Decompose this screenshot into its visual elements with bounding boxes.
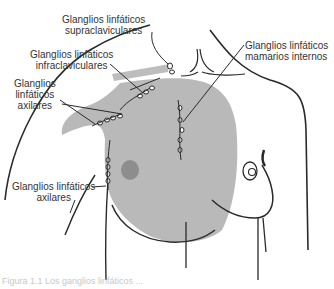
label-infraclavicular-nodes: Glanglios linfáticos infraclaviculares — [30, 49, 113, 71]
right-nipple — [249, 169, 256, 176]
breast-lymph-node-diagram: Glanglios linfáticos supraclaviculares G… — [0, 0, 334, 289]
leader-supraclavicular — [152, 32, 168, 64]
label-axillary-nodes-lower: Glanglios linfáticos axilares — [12, 181, 95, 203]
clavicle-left — [181, 72, 198, 76]
label-supraclavicular-nodes: Glanglios linfáticos supraclaviculares — [62, 14, 145, 36]
right-armpit-mark — [263, 150, 265, 166]
right-torso-line-2 — [263, 218, 266, 252]
neck-left — [190, 49, 198, 72]
label-axillary-nodes-upper: Glanglios linfáticos axilares — [14, 78, 56, 111]
supraclavicular-band — [112, 64, 170, 81]
figure-caption: Figura 1.1 Los ganglios linfáticos ... — [2, 276, 143, 286]
clavicle-right — [202, 72, 245, 75]
shaded-breast-region — [62, 78, 238, 242]
label-internal-mammary-nodes: Glanglios linfáticos mamarios internos — [245, 40, 328, 62]
torso-left-line — [106, 180, 108, 280]
neck-right — [200, 49, 214, 72]
left-nipple-shade — [121, 160, 139, 180]
